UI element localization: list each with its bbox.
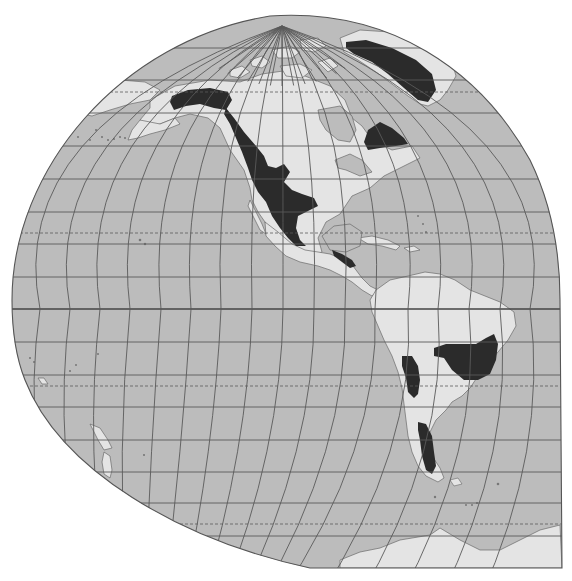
map-clipped-content	[0, 0, 572, 581]
small-island	[75, 364, 77, 366]
small-island	[471, 504, 473, 506]
small-island	[29, 357, 31, 359]
small-island	[101, 136, 103, 138]
small-island	[97, 353, 99, 355]
small-island	[89, 139, 91, 141]
small-island	[77, 136, 79, 138]
small-island	[417, 215, 419, 217]
small-island	[422, 223, 424, 225]
map-container	[0, 0, 572, 581]
small-island	[465, 504, 467, 506]
small-island	[143, 454, 145, 456]
small-island	[434, 496, 436, 498]
world-map-western-hemisphere	[0, 0, 572, 581]
small-island	[124, 137, 126, 139]
small-island	[107, 139, 109, 141]
small-island	[139, 239, 142, 242]
small-island	[69, 370, 71, 372]
small-island	[497, 483, 500, 486]
small-island	[119, 136, 121, 138]
